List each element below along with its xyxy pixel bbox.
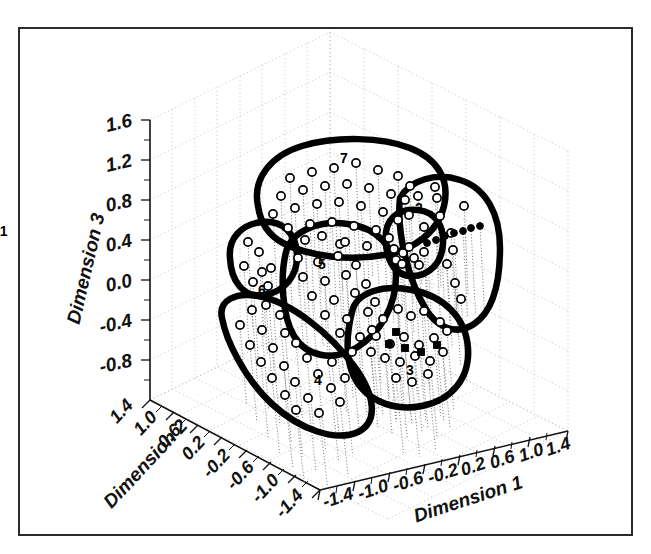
marker-open-circle xyxy=(328,358,336,366)
x-tick-label: 0.2 xyxy=(458,453,488,480)
marker-open-circle xyxy=(451,279,459,287)
marker-open-circle xyxy=(258,268,266,276)
marker-open-circle xyxy=(343,315,351,323)
marker-open-circle xyxy=(330,296,338,304)
x-tick-label: -1.0 xyxy=(355,475,391,504)
marker-open-circle xyxy=(306,220,314,228)
marker-open-circle xyxy=(341,374,349,382)
cluster-label-4: 4 xyxy=(314,372,322,388)
marker-open-circle xyxy=(343,180,351,188)
marker-open-circle xyxy=(379,208,387,216)
marker-filled-dot xyxy=(451,230,458,237)
marker-open-circle xyxy=(348,348,356,356)
z-tick-label: 0.4 xyxy=(103,229,134,256)
marker-open-circle xyxy=(321,311,329,319)
marker-open-circle xyxy=(318,232,326,240)
marker-open-circle xyxy=(367,348,375,356)
marker-open-circle xyxy=(321,277,329,285)
marker-open-circle xyxy=(457,295,465,303)
cluster-label-2: 2 xyxy=(415,200,423,216)
marker-open-circle xyxy=(284,224,292,232)
marker-open-circle xyxy=(308,168,316,176)
z-tick-label: -0.8 xyxy=(97,349,134,377)
marker-open-circle xyxy=(262,301,270,309)
marker-open-circle xyxy=(308,292,316,300)
marker-open-circle xyxy=(255,248,263,256)
marker-open-circle xyxy=(443,260,451,268)
marker-filled-square xyxy=(418,349,425,356)
marker-open-circle xyxy=(341,238,349,246)
marker-open-circle xyxy=(351,289,359,297)
marker-open-circle xyxy=(414,192,422,200)
z-tick-label: 1.2 xyxy=(103,149,134,176)
marker-open-circle xyxy=(246,341,254,349)
marker-open-circle xyxy=(280,362,288,370)
marker-filled-dot xyxy=(433,237,440,244)
marker-open-circle xyxy=(439,348,447,356)
marker-open-circle xyxy=(420,223,428,231)
marker-open-circle xyxy=(430,334,438,342)
marker-open-circle xyxy=(258,326,266,334)
marker-open-circle xyxy=(396,358,404,366)
marker-open-circle xyxy=(400,333,408,341)
marker-filled-dot xyxy=(424,240,431,247)
marker-open-circle xyxy=(357,202,365,210)
marker-open-circle xyxy=(299,273,307,281)
marker-open-circle xyxy=(431,183,439,191)
marker-open-circle xyxy=(433,194,441,202)
marker-open-circle xyxy=(420,307,428,315)
marker-open-circle xyxy=(460,202,468,210)
marker-open-circle xyxy=(379,315,387,323)
cluster-label-1: 1 xyxy=(0,223,8,239)
marker-open-circle xyxy=(408,378,416,386)
marker-open-circle xyxy=(415,261,423,269)
marker-filled-square xyxy=(434,342,441,349)
marker-open-circle xyxy=(350,222,358,230)
marker-open-circle xyxy=(387,190,395,198)
marker-open-circle xyxy=(365,184,373,192)
marker-filled-square xyxy=(402,345,409,352)
z-axis-ticks xyxy=(141,120,150,380)
marker-open-circle xyxy=(267,264,275,272)
z-axis-title: Dimension 3 xyxy=(63,211,109,326)
marker-open-circle xyxy=(301,236,309,244)
marker-open-circle xyxy=(407,312,415,320)
marker-open-circle xyxy=(292,339,300,347)
marker-open-circle xyxy=(269,210,277,218)
marker-open-circle xyxy=(328,218,336,226)
marker-open-circle xyxy=(244,238,252,246)
marker-open-circle xyxy=(303,354,311,362)
marker-open-circle xyxy=(405,211,413,219)
marker-open-circle xyxy=(327,384,335,392)
marker-open-circle xyxy=(342,271,350,279)
marker-filled-square xyxy=(393,329,400,336)
marker-open-circle xyxy=(249,278,257,286)
marker-open-circle xyxy=(371,298,379,306)
marker-open-circle xyxy=(291,204,299,212)
z-tick-labels: 1.6 1.2 0.8 0.4 0.0 -0.4 -0.8 xyxy=(97,109,134,377)
marker-open-circle xyxy=(436,318,444,326)
z-tick-label: 1.6 xyxy=(103,109,134,136)
marker-open-circle xyxy=(406,182,414,190)
marker-open-circle xyxy=(257,358,265,366)
marker-filled-dot xyxy=(460,228,467,235)
marker-open-circle xyxy=(368,326,376,334)
marker-open-circle xyxy=(352,159,360,167)
z-tick-label: -0.4 xyxy=(97,309,134,337)
marker-open-circle xyxy=(385,234,393,242)
marker-open-circle xyxy=(248,306,256,314)
marker-open-circle xyxy=(390,245,398,253)
marker-open-circle xyxy=(443,327,451,335)
marker-open-circle xyxy=(426,357,434,365)
marker-open-circle xyxy=(286,174,294,182)
marker-open-circle xyxy=(401,196,409,204)
marker-open-circle xyxy=(363,242,371,250)
marker-open-circle xyxy=(405,243,413,251)
marker-open-circle xyxy=(291,378,299,386)
marker-open-circle xyxy=(362,280,370,288)
marker-open-circle xyxy=(436,212,444,220)
marker-open-circle xyxy=(335,198,343,206)
scatter3d-plot: 1.6 1.2 0.8 0.4 0.0 -0.4 -0.8 Dimension … xyxy=(0,0,651,554)
marker-open-circle xyxy=(352,261,360,269)
figure-page: 1.6 1.2 0.8 0.4 0.0 -0.4 -0.8 Dimension … xyxy=(0,0,651,554)
